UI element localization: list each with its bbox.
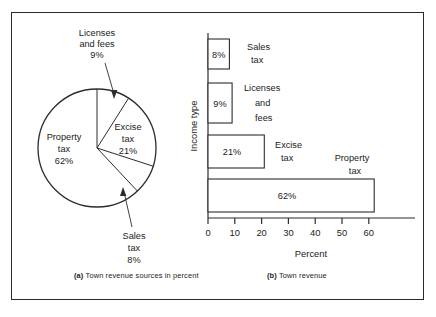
bar-value-licenses-and-fees: 9% bbox=[213, 99, 226, 109]
pie-label-excise-value: 21% bbox=[119, 146, 137, 156]
bar-label-sales-tax-line2: tax bbox=[251, 55, 264, 65]
bar-label-sales-tax-line1: Sales bbox=[247, 42, 270, 52]
x-axis-tick-labels: 0 10 20 30 40 50 60 bbox=[205, 227, 374, 238]
pie-label-property-value: 62% bbox=[55, 156, 73, 166]
bar-label-excise-line1: Excise bbox=[275, 140, 302, 150]
x-tick-40: 40 bbox=[310, 227, 320, 238]
bar-chart-panel: 0 10 20 30 40 50 60 Percent Income type … bbox=[187, 13, 425, 299]
caption-a-text: Town revenue sources in percent bbox=[86, 271, 199, 280]
bar-value-sales-tax: 8% bbox=[212, 50, 225, 60]
pie-label-excise-line2: tax bbox=[122, 134, 135, 144]
x-axis-ticks bbox=[208, 218, 369, 224]
y-axis-title: Income type bbox=[188, 100, 199, 151]
pie-label-sales-value: 8% bbox=[127, 255, 140, 265]
caption-b: (b) Town revenue bbox=[267, 271, 327, 280]
pie-label-licenses-and-fees: Licenses and fees 9% bbox=[79, 28, 118, 99]
x-tick-0: 0 bbox=[205, 227, 210, 238]
bar-label-property-line1: Property bbox=[335, 153, 370, 163]
bar-label-licenses-line3: fees bbox=[255, 113, 273, 123]
pie-label-licenses-value: 9% bbox=[90, 50, 103, 60]
bar-row-excise-tax[interactable]: 21% Excise tax bbox=[208, 135, 302, 168]
x-tick-30: 30 bbox=[283, 227, 293, 238]
pie-label-licenses-line2: and fees bbox=[79, 39, 115, 49]
bar-value-excise-tax: 21% bbox=[223, 147, 241, 157]
pie-label-licenses-line1: Licenses bbox=[79, 28, 116, 38]
x-axis-title: Percent bbox=[295, 248, 328, 259]
bar-label-property-line2: tax bbox=[349, 166, 362, 176]
pie-label-excise-line1: Excise bbox=[114, 122, 141, 132]
bar-label-licenses-line1: Licenses bbox=[244, 83, 281, 93]
bar-value-property-tax: 62% bbox=[278, 191, 296, 201]
figure-frame: Licenses and fees 9% Excise tax 21% Prop… bbox=[11, 12, 424, 300]
caption-a: (a) Town revenue sources in percent bbox=[74, 271, 199, 280]
pie-label-sales-line1: Sales bbox=[123, 231, 146, 241]
caption-b-text: Town revenue bbox=[279, 271, 327, 280]
x-tick-50: 50 bbox=[337, 227, 347, 238]
bar-row-sales-tax[interactable]: 8% Sales tax bbox=[208, 39, 270, 69]
bar-label-excise-line2: tax bbox=[281, 153, 294, 163]
caption-b-prefix: (b) bbox=[267, 271, 277, 280]
pie-label-sales-line2: tax bbox=[128, 243, 141, 253]
bar-row-licenses-and-fees[interactable]: 9% Licenses and fees bbox=[208, 83, 281, 123]
pie-chart-svg: Licenses and fees 9% Excise tax 21% Prop… bbox=[12, 13, 202, 301]
x-tick-20: 20 bbox=[256, 227, 266, 238]
x-tick-60: 60 bbox=[364, 227, 374, 238]
pie-label-property-line1: Property bbox=[47, 132, 82, 142]
bar-label-licenses-line2: and bbox=[255, 98, 270, 108]
bar-chart-svg: 0 10 20 30 40 50 60 Percent Income type … bbox=[187, 13, 425, 301]
x-tick-10: 10 bbox=[230, 227, 240, 238]
caption-a-prefix: (a) bbox=[74, 271, 83, 280]
pie-chart-panel: Licenses and fees 9% Excise tax 21% Prop… bbox=[12, 13, 202, 299]
pie-label-property-line2: tax bbox=[58, 144, 71, 154]
